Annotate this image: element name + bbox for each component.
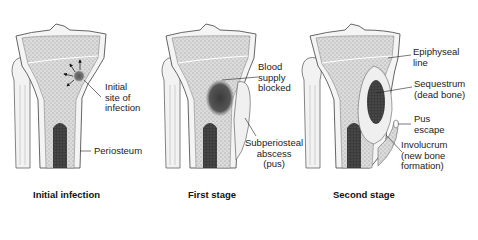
panel-second-stage bbox=[302, 24, 412, 168]
caption-second-stage: Second stage bbox=[333, 189, 395, 200]
caption-first-stage: First stage bbox=[188, 189, 236, 200]
panel-initial-infection bbox=[12, 24, 106, 168]
blocked-area bbox=[206, 80, 234, 116]
label-subperiosteal-abscess: Subperiosteal abscess (pus) bbox=[245, 138, 303, 170]
label-epiphyseal-line: Epiphyseal line bbox=[413, 47, 459, 68]
label-blood-supply-blocked: Blood supply blocked bbox=[258, 62, 291, 94]
label-involucrum: Involucrum (new bone formation) bbox=[401, 140, 447, 172]
marrow-cavity bbox=[53, 123, 67, 168]
pus-escape bbox=[394, 120, 399, 128]
sequestrum bbox=[367, 80, 385, 124]
label-sequestrum: Sequestrum (dead bone) bbox=[414, 79, 465, 100]
panel-first-stage bbox=[162, 24, 258, 168]
label-periosteum: Periosteum bbox=[94, 146, 142, 157]
label-pus-escape: Pus escape bbox=[414, 114, 445, 135]
caption-initial-infection: Initial infection bbox=[33, 189, 100, 200]
label-initial-site-of-infection: Initial site of infection bbox=[105, 82, 140, 114]
